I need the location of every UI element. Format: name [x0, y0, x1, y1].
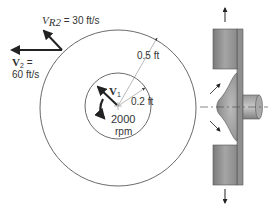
vr2-label: VR2 = 30 ft/s [42, 15, 100, 28]
v1-label: V1 [109, 86, 121, 100]
v2-equals: = [24, 57, 33, 68]
vr2-arrow [44, 31, 62, 50]
outer-radius-label: 0.5 ft [137, 50, 159, 61]
vr2-value: = 30 ft/s [61, 15, 100, 26]
v1-symbol: V [109, 85, 117, 97]
v2-value: 60 ft/s [12, 69, 39, 80]
inner-radius-label: 0.2 ft [131, 96, 153, 107]
speed-value: 2000 [111, 114, 135, 125]
speed-unit: rpm [115, 126, 132, 137]
v1-subscript: 1 [117, 91, 121, 98]
vr2-symbol: V [42, 14, 49, 26]
vr2-subscript: R2 [49, 16, 61, 28]
rotation-arrow [100, 99, 104, 118]
impeller-side-view [200, 8, 268, 203]
v2-symbol: V [12, 56, 20, 68]
